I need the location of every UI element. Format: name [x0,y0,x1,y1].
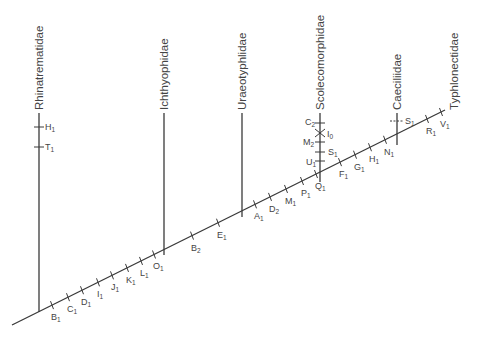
stem-character-label: I1 [97,289,104,300]
stem-character-label: B2 [191,243,201,254]
stem-character-label: O1 [153,261,164,272]
stem-character-label: R1 [426,126,437,137]
stem-characters: B1C1D1I1J1K1L1O1B2E1A1D2M1P1Q1F1G1H1N1R1… [51,108,451,323]
stem-character-label: A1 [254,211,264,222]
stem-character-label: D2 [269,204,280,215]
taxon-label-scolecomorphidae: Scolecomorphidae [314,15,326,110]
taxon-label-caeciliidae: Caeciliidae [391,54,403,110]
stem-character-label: E1 [217,230,227,241]
taxon-label-ichthyophidae: Ichthyophidae [158,38,170,110]
svg-text:H1: H1 [45,122,56,133]
main-stem [12,110,445,325]
stem-character-label: M1 [285,196,297,207]
svg-text:S1: S1 [328,147,338,158]
taxon-label-uraeotyphlidae: Uraeotyphlidae [236,33,248,110]
rhinatrematidae-characters: H1 T1 [34,122,56,153]
stem-character-label: D1 [81,297,92,308]
svg-text:C2: C2 [305,117,316,128]
stem-character-label: K1 [126,275,136,286]
svg-text:U1: U1 [306,157,317,168]
stem-character-label: J1 [111,282,120,293]
stem-character-label: P1 [301,188,311,199]
cladogram: Rhinatrematidae Ichthyophidae Uraeotyphl… [0,0,490,337]
svg-text:S1: S1 [405,116,415,127]
svg-text:I0: I0 [327,129,334,140]
stem-character-label: V1 [440,119,450,130]
taxon-label-typhlonectidae: Typhlonectidae [448,33,460,110]
stem-character-label: H1 [369,154,380,165]
stem-character-label: Q1 [315,181,326,192]
taxon-label-rhinatrematidae: Rhinatrematidae [33,26,45,110]
stem-character-label: F1 [339,169,349,180]
stem-character-label: B1 [51,312,61,323]
stem-character-label: G1 [354,162,365,173]
svg-text:T1: T1 [45,142,55,153]
stem-character-label: N1 [384,147,395,158]
stem-character-label: C1 [67,304,78,315]
svg-text:M2: M2 [303,137,315,148]
caeciliidae-characters: S1 [390,116,415,127]
stem-character-label: L1 [140,268,149,279]
